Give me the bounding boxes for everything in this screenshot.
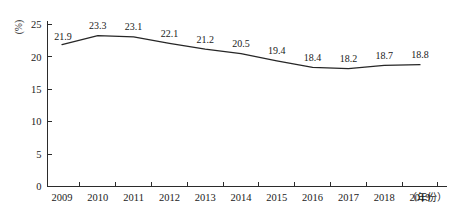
data-point-label: 19.4 [268, 45, 286, 56]
data-point-label: 18.2 [340, 53, 358, 64]
y-tick-label: 25 [31, 19, 42, 30]
line-chart: 0510152025 20092010201120122013201420152… [0, 0, 463, 214]
y-tick-label: 15 [31, 84, 42, 95]
chart-canvas: 0510152025 20092010201120122013201420152… [0, 0, 463, 214]
y-tick-label: 0 [36, 181, 41, 192]
x-tick-label: 2011 [123, 192, 144, 203]
data-point-labels: 21.923.323.122.121.220.519.418.418.218.7… [54, 20, 429, 64]
data-point-label: 23.1 [125, 21, 143, 32]
x-tick-label: 2015 [266, 192, 287, 203]
x-tick-label: 2012 [159, 192, 180, 203]
y-tick-label: 10 [31, 116, 42, 127]
x-tick-label: 2018 [374, 192, 395, 203]
data-point-label: 21.9 [54, 31, 72, 42]
x-axis-name-label: （年份） [407, 191, 447, 203]
y-axis-unit-label: (%) [14, 20, 25, 34]
y-axis-unit-text: (%) [14, 20, 25, 34]
x-axis-tick-labels: 2009201020112012201320142015201620172018… [52, 192, 431, 203]
y-axis-ticks [48, 25, 53, 155]
y-axis-tick-labels: 0510152025 [31, 19, 42, 192]
x-tick-label: 2013 [195, 192, 216, 203]
x-tick-label: 2016 [302, 192, 323, 203]
data-point-label: 21.2 [196, 34, 214, 45]
data-point-label: 18.7 [375, 50, 393, 61]
x-axis-ticks [80, 182, 438, 187]
x-tick-label: 2014 [231, 192, 253, 203]
x-tick-label: 2010 [87, 192, 108, 203]
data-point-label: 18.8 [411, 49, 429, 60]
data-point-label: 22.1 [161, 28, 179, 39]
data-point-label: 18.4 [304, 52, 322, 63]
x-tick-label: 2009 [52, 192, 73, 203]
data-point-label: 23.3 [89, 20, 107, 31]
data-point-label: 20.5 [232, 38, 250, 49]
x-tick-label: 2017 [338, 192, 359, 203]
y-tick-label: 5 [36, 149, 41, 160]
y-tick-label: 20 [31, 52, 42, 63]
